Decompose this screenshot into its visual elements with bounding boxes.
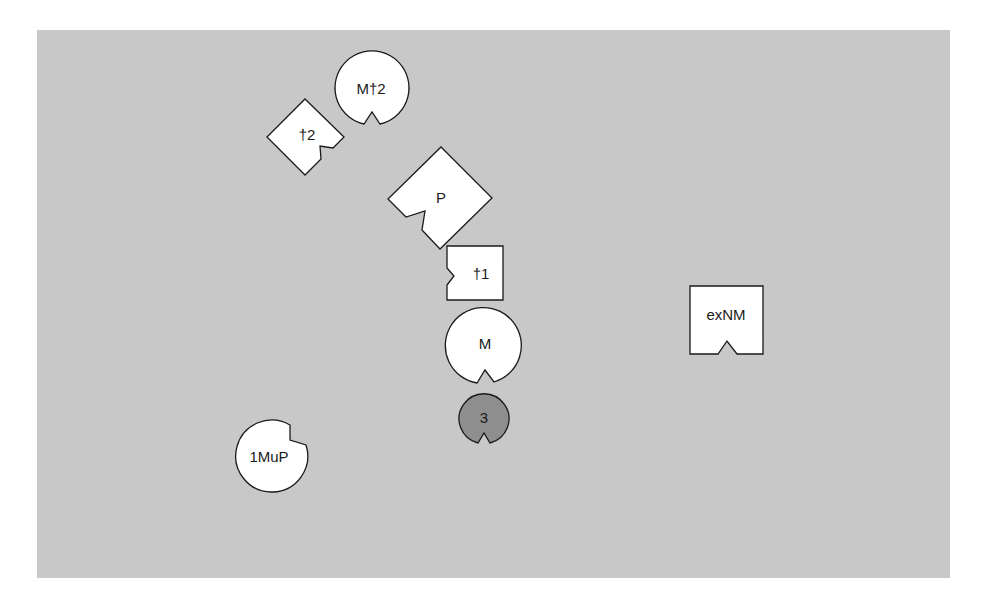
node-label: M [479,335,492,352]
node-label: 3 [480,409,488,426]
node-1mup[interactable]: 1MuP [236,420,308,492]
node-exnm[interactable]: exNM [690,286,763,354]
node-label: M†2 [356,80,385,97]
node-m-dagger-2[interactable]: M†2 [335,51,409,124]
diagram-svg: M†2 †2 P †1 M 3 1MuP exNM [0,0,986,604]
node-dagger-1[interactable]: †1 [447,246,503,300]
node-label: †2 [299,126,316,143]
node-label: P [436,189,446,206]
node-label: 1MuP [249,448,288,465]
node-label: †1 [473,265,490,282]
node-label: exNM [706,306,745,323]
node-dagger-2[interactable]: †2 [267,99,344,175]
node-m[interactable]: M [445,308,521,383]
node-p[interactable]: P [388,147,492,249]
node-3[interactable]: 3 [459,394,509,443]
